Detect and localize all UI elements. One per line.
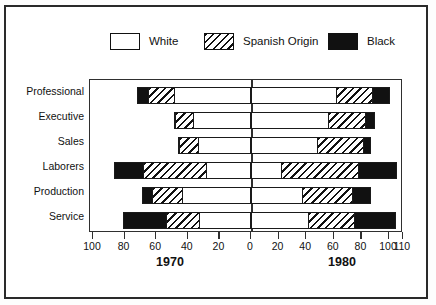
segment-white [252, 113, 328, 128]
axis-tick [124, 232, 125, 239]
axis-tick [360, 232, 361, 239]
category-label-service: Service [49, 210, 84, 222]
axis-tick [388, 232, 389, 239]
bar-sales-1980 [251, 137, 371, 154]
axis-tick [402, 232, 403, 239]
segment-spanish-origin [166, 213, 199, 228]
axis-tick [92, 232, 93, 239]
chart-legend: White Spanish Origin Black [0, 28, 436, 54]
segment-black [354, 213, 395, 228]
bar-professional-1980 [251, 87, 390, 104]
bar-professional-1970 [137, 87, 251, 104]
axis-label-1980-110: 110 [393, 240, 410, 252]
legend-label-spanish-origin: Spanish Origin [243, 35, 318, 47]
segment-spanish-origin [328, 113, 365, 128]
bar-sales-1970 [178, 137, 251, 154]
category-label-laborers: Laborers [43, 160, 84, 172]
axis-tick [187, 232, 188, 239]
segment-white [198, 138, 250, 153]
axis-label-1970-20: 20 [213, 240, 225, 252]
segment-spanish-origin [336, 88, 371, 103]
axis-tick [218, 232, 219, 239]
segment-white [252, 138, 317, 153]
axis-tick [250, 232, 251, 239]
category-axis: Professional Executive Sales Laborers Pr… [0, 79, 84, 232]
axis-label-1970-100: 100 [83, 240, 101, 252]
bar-executive-1980 [251, 112, 375, 129]
decade-label-1970: 1970 [156, 255, 184, 269]
segment-spanish-origin [317, 138, 363, 153]
segment-spanish-origin [148, 88, 174, 103]
category-label-professional: Professional [26, 85, 84, 97]
segment-black [372, 88, 390, 103]
segment-black [358, 163, 396, 178]
segment-white [252, 188, 302, 203]
segment-black [124, 213, 166, 228]
segment-spanish-origin [175, 113, 193, 128]
legend-item-black: Black [328, 28, 395, 54]
segment-white [206, 163, 250, 178]
segment-black [363, 138, 370, 153]
plot-area [89, 79, 402, 232]
legend-swatch-black-icon [328, 33, 358, 50]
legend-swatch-white-icon [110, 33, 140, 50]
axis-label-1970-40: 40 [181, 240, 193, 252]
axis-tick [278, 232, 279, 239]
category-label-executive: Executive [38, 110, 84, 122]
category-label-sales: Sales [58, 135, 84, 147]
segment-black [365, 113, 375, 128]
legend-label-white: White [149, 35, 178, 47]
legend-item-white: White [110, 28, 178, 54]
chart-figure: White Spanish Origin Black Professional … [0, 0, 436, 305]
segment-white [252, 88, 336, 103]
value-axis-labels: 10080604020020406080100110 [0, 240, 436, 254]
axis-tick [155, 232, 156, 239]
segment-spanish-origin [152, 188, 181, 203]
segment-white [252, 213, 308, 228]
category-label-production: Production [34, 185, 84, 197]
segment-white [199, 213, 250, 228]
bar-production-1970 [142, 187, 251, 204]
segment-black [352, 188, 370, 203]
bar-executive-1970 [174, 112, 251, 129]
segment-spanish-origin [281, 163, 359, 178]
segment-white [193, 113, 250, 128]
segment-white [174, 88, 250, 103]
axis-label-1970-60: 60 [149, 240, 161, 252]
bar-service-1970 [123, 212, 251, 229]
axis-label-1970-80: 80 [118, 240, 130, 252]
segment-spanish-origin [302, 188, 352, 203]
axis-label-1980-40: 40 [299, 240, 311, 252]
segment-white [252, 163, 281, 178]
legend-label-black: Black [367, 35, 395, 47]
axis-label-zero: 0 [247, 240, 253, 252]
bar-laborers-1970 [114, 162, 251, 179]
segment-black [115, 163, 143, 178]
segment-spanish-origin [143, 163, 207, 178]
axis-tick [333, 232, 334, 239]
bar-service-1980 [251, 212, 396, 229]
axis-label-1980-20: 20 [272, 240, 284, 252]
bar-laborers-1980 [251, 162, 397, 179]
legend-item-spanish-origin: Spanish Origin [204, 28, 318, 54]
segment-spanish-origin [308, 213, 354, 228]
segment-spanish-origin [179, 138, 197, 153]
decade-label-1980: 1980 [328, 255, 356, 269]
segment-white [182, 188, 250, 203]
axis-label-1980-60: 60 [327, 240, 339, 252]
axis-label-1980-80: 80 [355, 240, 367, 252]
segment-black [143, 188, 152, 203]
segment-black [138, 88, 147, 103]
bar-production-1980 [251, 187, 371, 204]
legend-swatch-hatch-icon [204, 33, 234, 50]
axis-tick [305, 232, 306, 239]
